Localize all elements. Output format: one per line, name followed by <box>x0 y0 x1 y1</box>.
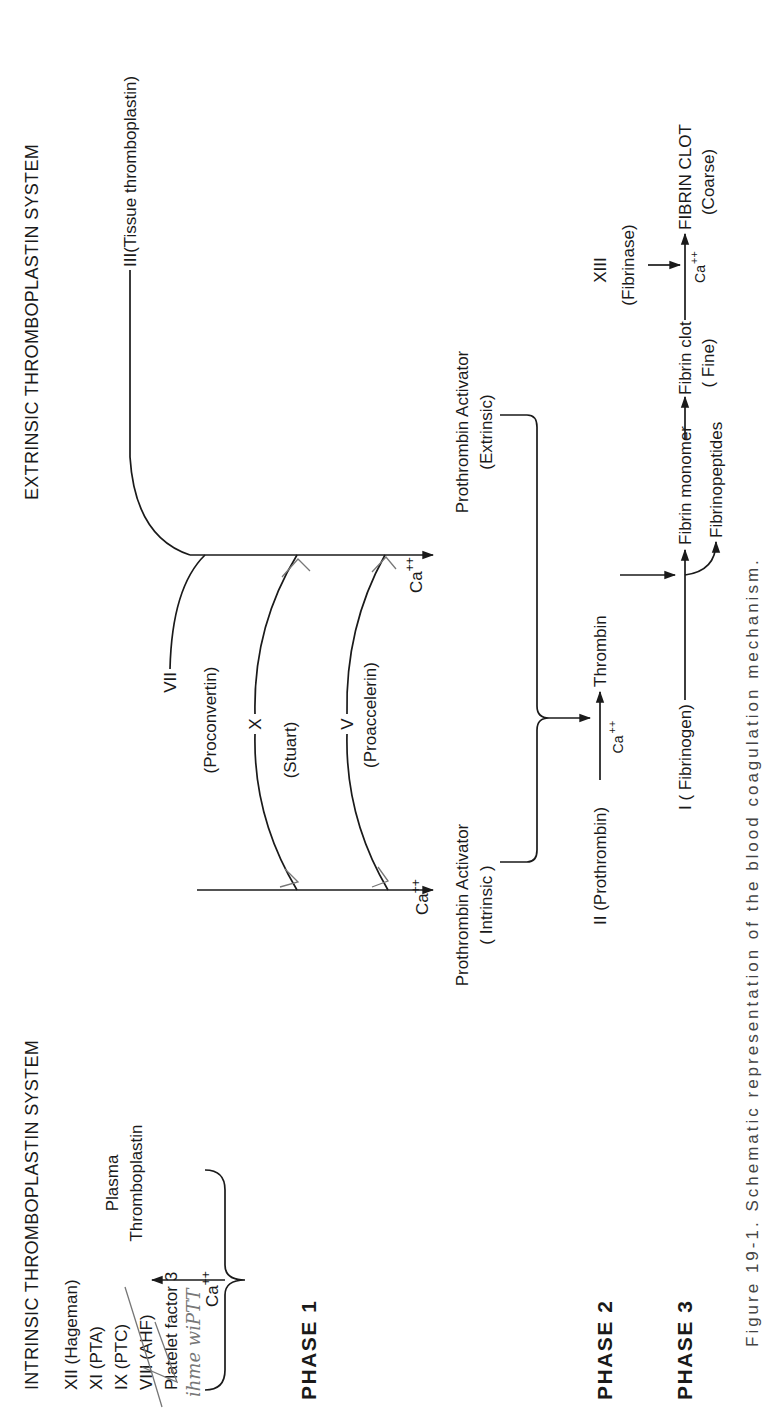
svg-text:ihme wiPTT: ihme wiPTT <box>183 1287 204 1397</box>
fine-label: ( Fine) <box>699 338 718 387</box>
stuart-label: (Stuart) <box>281 722 300 779</box>
activator-intrinsic-label: Prothrombin Activator <box>453 823 472 986</box>
calcium-label-extrinsic: Ca++ <box>403 557 426 593</box>
thromboplastin-label: Thromboplastin <box>127 1124 146 1241</box>
phase-3-label: PHASE 3 <box>673 1300 696 1400</box>
factor-vii-label: VII <box>161 672 180 693</box>
factor-vii-line <box>170 555 205 669</box>
proaccelerin-label: (Proaccelerin) <box>361 662 380 768</box>
activator-intrinsic-sub: ( Intrinsic ) <box>477 865 496 944</box>
fibrin-clot-coarse-label: FIBRIN CLOT <box>676 124 695 230</box>
factor-ix: IX (PTC) <box>112 1324 131 1390</box>
factor-v-label: V <box>338 718 357 730</box>
plasma-label: Plasma <box>103 1154 122 1211</box>
calcium-label-intrinsic: Ca++ <box>409 879 432 915</box>
platelet-factor-3: Platelet factor 3 <box>162 1272 181 1390</box>
intrinsic-system-header: INTRINSIC THROMBOPLASTIN SYSTEM <box>22 1040 42 1390</box>
factor-xii: XII (Hageman) <box>62 1279 81 1390</box>
tissue-thromboplastin-label: III(Tissue thromboplastin) <box>121 76 140 267</box>
intrinsic-factor-list: XII (Hageman) XI (PTA) IX (PTC) VIII (AH… <box>62 1272 181 1390</box>
coagulation-cascade-diagram: INTRINSIC THROMBOPLASTIN SYSTEM EXTRINSI… <box>0 0 766 1427</box>
calcium-label-phase3: Ca++ <box>688 251 708 283</box>
prothrombin-label: II (Prothrombin) <box>591 807 610 925</box>
fibrin-monomer-label: Fibrin monomer <box>676 426 695 545</box>
factor-x-label: X <box>246 718 265 729</box>
activator-extrinsic-label: Prothrombin Activator <box>453 350 472 513</box>
fibrinase-label: (Fibrinase) <box>619 224 638 305</box>
phase-2-label: PHASE 2 <box>593 1300 616 1400</box>
factor-xi: XI (PTA) <box>87 1326 106 1390</box>
diagram-stage: INTRINSIC THROMBOPLASTIN SYSTEM EXTRINSI… <box>0 0 766 1427</box>
phase-1-label: PHASE 1 <box>297 1300 320 1400</box>
factor-xiii-label: XIII <box>591 257 610 283</box>
calcium-label-phase2: Ca++ <box>606 721 626 754</box>
coarse-label: (Coarse) <box>699 149 718 215</box>
activator-extrinsic-sub: (Extrinsic) <box>477 394 496 470</box>
fibrinopeptides-label: Fibrinopeptides <box>707 422 726 538</box>
fibrinopeptides-arrow <box>685 542 716 575</box>
activator-brace <box>500 415 549 862</box>
thrombin-label: Thrombin <box>591 615 610 687</box>
fibrinogen-label: I ( Fibrinogen) <box>676 704 695 810</box>
proconvertin-label: (Proconvertin) <box>201 667 220 774</box>
figure-caption: Figure 19-1. Schematic representation of… <box>743 557 762 1347</box>
factor-x-arc-right <box>255 555 297 714</box>
fibrin-clot-fine-label: Fibrin clot <box>676 321 695 395</box>
tissue-thromboplastin-curve <box>130 270 190 555</box>
extrinsic-system-header: EXTRINSIC THROMBOPLASTIN SYSTEM <box>22 144 42 500</box>
